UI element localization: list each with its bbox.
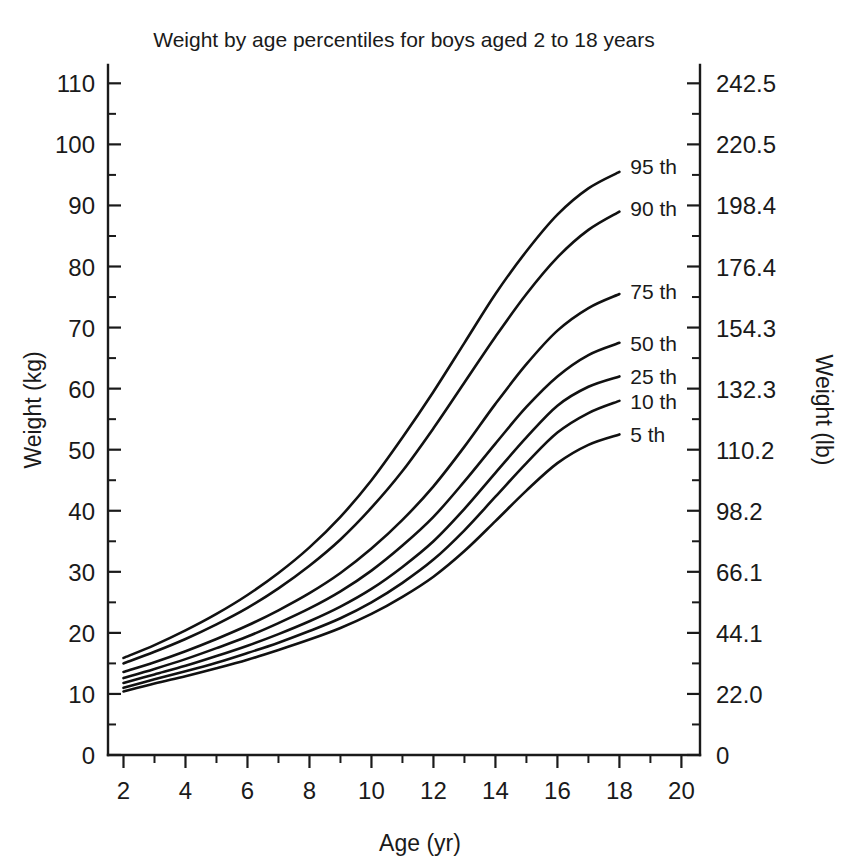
chart-background [0,0,853,867]
y-axis-left-title: Weight (kg) [20,351,46,468]
x-axis-tick-label: 20 [668,777,695,804]
y-axis-left-tick-label: 100 [55,131,95,158]
y-axis-right-tick-label: 220.5 [716,131,776,158]
percentile-curve-label: 90 th [630,197,677,220]
y-axis-right-tick-label: 22.0 [716,681,763,708]
y-axis-left-tick-label: 70 [68,315,95,342]
y-axis-left-tick-label: 30 [68,559,95,586]
y-axis-left-tick-label: 60 [68,376,95,403]
y-axis-left-tick-label: 10 [68,681,95,708]
x-axis-title: Age (yr) [379,830,461,856]
y-axis-right-tick-label: 0 [716,742,729,769]
chart-title: Weight by age percentiles for boys aged … [153,28,655,51]
y-axis-left-tick-label: 90 [68,192,95,219]
x-axis-tick-label: 14 [482,777,509,804]
x-axis-tick-label: 6 [241,777,254,804]
x-axis-tick-label: 10 [358,777,385,804]
y-axis-left-tick-label: 20 [68,620,95,647]
y-axis-right-tick-label: 98.2 [716,498,763,525]
x-axis-tick-label: 8 [303,777,316,804]
y-axis-right-tick-label: 110.2 [716,437,774,464]
y-axis-right-tick-label: 132.3 [716,376,776,403]
x-axis-tick-label: 2 [117,777,130,804]
series-labels-group: 95 th90 th75 th50 th25 th10 th5 th [630,155,677,447]
percentile-curve-label: 5 th [630,423,665,446]
percentile-curve-label: 95 th [630,155,677,178]
percentile-curve-label: 25 th [630,365,677,388]
y-axis-right-tick-label: 66.1 [716,559,763,586]
y-axis-right-title: Weight (lb) [811,355,837,466]
y-axis-right-tick-label: 242.5 [716,70,776,97]
percentile-curve-label: 75 th [630,280,677,303]
x-axis-tick-label: 16 [544,777,571,804]
y-axis-right-tick-label: 176.4 [716,254,776,281]
y-axis-right-tick-label: 154.3 [716,315,776,342]
percentile-curve-label: 10 th [630,390,677,413]
y-axis-left-tick-label: 80 [68,254,95,281]
chart-canvas: Weight by age percentiles for boys aged … [0,0,853,867]
y-axis-left-tick-label: 110 [57,70,95,97]
y-axis-left-tick-label: 0 [82,742,95,769]
growth-chart-figure: Weight by age percentiles for boys aged … [0,0,853,867]
percentile-curve-label: 50 th [630,332,677,355]
y-axis-left-tick-label: 40 [68,498,95,525]
x-axis-tick-label: 12 [420,777,447,804]
y-axis-right-tick-label: 44.1 [716,620,763,647]
x-axis-tick-label: 18 [606,777,633,804]
x-axis-tick-label: 4 [179,777,192,804]
y-axis-left-tick-label: 50 [68,437,95,464]
y-axis-right-tick-label: 198.4 [716,192,776,219]
